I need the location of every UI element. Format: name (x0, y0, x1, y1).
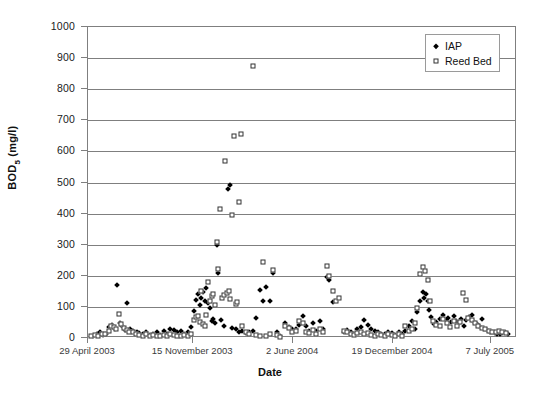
data-point-reed-bed (161, 332, 166, 337)
data-point-reed-bed (206, 280, 211, 285)
data-point-iap (140, 331, 146, 337)
data-point-reed-bed (466, 315, 471, 320)
data-point-iap (293, 326, 299, 332)
data-point-iap (417, 298, 423, 304)
data-point-iap (193, 297, 199, 303)
data-point-iap (286, 324, 292, 330)
data-point-reed-bed (297, 318, 302, 323)
data-point-iap (161, 328, 167, 334)
data-point-reed-bed (137, 332, 142, 337)
data-point-iap (409, 318, 415, 324)
data-point-reed-bed (400, 333, 405, 338)
data-point-reed-bed (122, 326, 127, 331)
data-point-iap (379, 331, 385, 337)
data-point-iap (240, 328, 246, 334)
data-point-iap (461, 323, 467, 329)
data-point-iap (396, 330, 402, 336)
data-point-iap (209, 318, 215, 324)
data-point-reed-bed (434, 322, 439, 327)
data-point-reed-bed (240, 323, 245, 328)
data-point-reed-bed (479, 326, 484, 331)
data-point-iap (425, 298, 431, 304)
data-point-iap (277, 334, 283, 340)
x-axis-tick-label: 7 July 2005 (466, 345, 515, 356)
data-point-reed-bed (460, 290, 465, 295)
data-point-iap (250, 328, 256, 334)
data-point-iap (100, 332, 106, 338)
data-point-iap (482, 326, 488, 332)
data-point-reed-bed (106, 329, 111, 334)
data-point-reed-bed (333, 299, 338, 304)
data-point-iap (434, 319, 440, 325)
data-point-iap (421, 295, 427, 301)
data-point-reed-bed (382, 333, 387, 338)
data-point-iap (420, 289, 426, 295)
data-point-iap (274, 329, 280, 335)
data-point-reed-bed (310, 328, 315, 333)
x-axis-tick-mark (87, 337, 88, 343)
data-point-reed-bed (386, 331, 391, 336)
data-point-iap (90, 333, 96, 339)
plot-area (87, 26, 516, 337)
data-point-reed-bed (365, 331, 370, 336)
data-point-reed-bed (348, 331, 353, 336)
data-point-iap (437, 316, 443, 322)
data-point-reed-bed (278, 334, 283, 339)
data-point-reed-bed (493, 330, 498, 335)
data-point-reed-bed (261, 259, 266, 264)
data-point-iap (326, 277, 332, 283)
data-point-iap (471, 319, 477, 325)
data-point-iap (94, 331, 100, 337)
data-point-iap (505, 331, 511, 337)
data-point-iap (469, 312, 475, 318)
data-point-reed-bed (393, 334, 398, 339)
data-point-iap (154, 330, 160, 336)
data-point-reed-bed (103, 332, 108, 337)
data-point-iap (119, 323, 125, 329)
data-point-reed-bed (96, 333, 101, 338)
data-point-iap (192, 308, 198, 314)
data-point-reed-bed (127, 329, 132, 334)
data-point-reed-bed (406, 329, 411, 334)
data-point-iap (365, 322, 371, 328)
data-point-iap (150, 331, 156, 337)
data-point-reed-bed (140, 333, 145, 338)
data-point-iap (236, 329, 242, 335)
data-point-reed-bed (144, 332, 149, 337)
data-point-iap (267, 298, 273, 304)
data-point-reed-bed (185, 333, 190, 338)
data-point-iap (392, 332, 398, 338)
data-point-iap (307, 328, 313, 334)
data-point-reed-bed (454, 323, 459, 328)
data-point-iap (97, 329, 103, 335)
data-point-iap (423, 291, 429, 297)
y-axis-tick-label: 400 (57, 207, 75, 219)
data-point-reed-bed (89, 334, 94, 339)
data-point-reed-bed (469, 317, 474, 322)
data-point-iap (456, 320, 462, 326)
y-axis-tick-label: 500 (57, 176, 75, 188)
x-axis-title: Date (0, 366, 540, 378)
data-point-reed-bed (337, 296, 342, 301)
data-point-reed-bed (341, 329, 346, 334)
data-point-reed-bed (237, 200, 242, 205)
data-point-reed-bed (428, 298, 433, 303)
data-point-reed-bed (151, 333, 156, 338)
data-point-reed-bed (92, 332, 97, 337)
data-point-reed-bed (412, 321, 417, 326)
data-point-reed-bed (224, 290, 229, 295)
data-point-reed-bed (243, 330, 248, 335)
data-point-reed-bed (372, 333, 377, 338)
data-point-iap (264, 284, 270, 290)
data-point-iap (399, 331, 405, 337)
gridline (88, 120, 515, 121)
data-point-iap (181, 331, 187, 337)
data-point-reed-bed (396, 332, 401, 337)
data-point-iap (260, 298, 266, 304)
y-axis-tick-label: 800 (57, 82, 75, 94)
data-point-iap (233, 326, 239, 332)
data-point-reed-bed (221, 293, 226, 298)
data-point-reed-bed (410, 326, 415, 331)
data-point-iap (122, 327, 128, 333)
data-point-iap (320, 326, 326, 332)
